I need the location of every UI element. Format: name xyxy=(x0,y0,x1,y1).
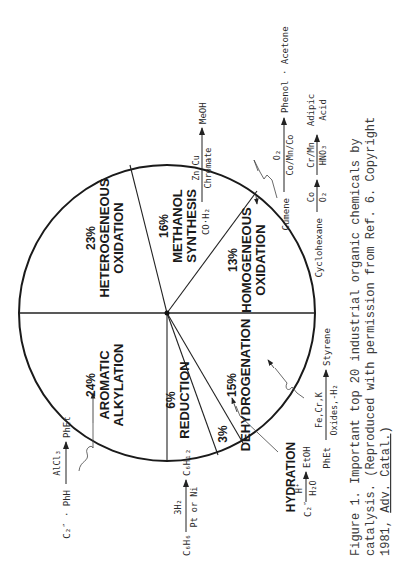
svg-text:MeOH: MeOH xyxy=(198,102,208,124)
svg-text:AlCl₃: AlCl₃ xyxy=(52,450,62,476)
figure-page: 24% AROMATIC ALKYLATION 23% HETEROGENEOU… xyxy=(0,0,417,580)
svg-text:H⁺: H⁺ xyxy=(294,483,304,493)
svg-text:H₂O: H₂O xyxy=(308,480,318,495)
svg-text:CO·H₂: CO·H₂ xyxy=(201,208,211,235)
svg-text:Adipic: Adipic xyxy=(306,94,316,127)
divider-heterogeneous-methanol xyxy=(130,165,167,313)
svg-text:PhEt: PhEt xyxy=(62,416,72,438)
svg-text:Pt or Ni: Pt or Ni xyxy=(189,487,199,528)
reaction-cyclohexane: Cyclohexane Co O₂ Cr/Mn HNO₃ Adipic Acid xyxy=(306,94,328,278)
svg-text:13%: 13% xyxy=(226,248,240,272)
svg-text:Zn-Cu: Zn-Cu xyxy=(191,155,201,181)
svg-text:METHANOL: METHANOL xyxy=(170,189,185,263)
svg-text:PhEt: PhEt xyxy=(322,447,332,469)
svg-text:Cumene: Cumene xyxy=(281,198,291,231)
svg-text:24%: 24% xyxy=(84,373,98,397)
svg-text:1981, Adv. Catal.): 1981, Adv. Catal.) xyxy=(379,426,393,556)
svg-text:OXIDATION: OXIDATION xyxy=(253,224,268,295)
svg-text:OXIDATION: OXIDATION xyxy=(111,202,126,273)
svg-text:C₂″: C₂″ xyxy=(303,501,313,517)
svg-text:AROMATIC: AROMATIC xyxy=(97,350,112,420)
reaction-reduction: C₆H₆ 3H₂ Pt or Ni C₆H₁₂ xyxy=(173,449,199,556)
svg-text:DEHYDROGENATION: DEHYDROGENATION xyxy=(238,319,253,452)
svg-text:Chromate: Chromate xyxy=(203,148,213,189)
svg-text:15%: 15% xyxy=(225,373,239,397)
svg-text:3H₂: 3H₂ xyxy=(173,499,183,514)
svg-text:Co/Mn/Co: Co/Mn/Co xyxy=(285,135,295,176)
svg-text:C₆H₆: C₆H₆ xyxy=(182,534,192,556)
svg-text:EtOH: EtOH xyxy=(302,446,312,468)
figure-caption: Figure 1. Important top 20 industrial or… xyxy=(349,117,393,556)
svg-text:Figure 1. Important top 20 ind: Figure 1. Important top 20 industrial or… xyxy=(349,138,363,556)
svg-text:HOMOGENEOUS: HOMOGENEOUS xyxy=(239,207,254,313)
svg-text:Oxides,-H₂: Oxides,-H₂ xyxy=(329,384,339,435)
svg-text:SYNTHESIS: SYNTHESIS xyxy=(184,189,199,263)
slice-label-heterogeneous: 23% HETEROGENEOUS OXIDATION xyxy=(84,178,126,298)
svg-text:catalysis. (Reproduced with pe: catalysis. (Reproduced with permission f… xyxy=(364,117,378,556)
svg-text:ALKYLATION: ALKYLATION xyxy=(111,344,126,427)
svg-text:23%: 23% xyxy=(84,226,98,250)
svg-text:6%: 6% xyxy=(164,391,178,409)
slice-label-hydration-pct: 3% xyxy=(216,425,230,443)
svg-text:HYDRATION: HYDRATION xyxy=(284,442,298,512)
svg-text:C₂″ · PhH: C₂″ · PhH xyxy=(62,490,72,539)
reaction-alkylation: C₂″ · PhH AlCl₃ PhEt xyxy=(52,393,93,539)
svg-text:Acid: Acid xyxy=(318,99,328,121)
svg-text:O₂: O₂ xyxy=(318,192,328,202)
svg-text:Cr/Mn: Cr/Mn xyxy=(306,142,316,168)
svg-text:C₆H₁₂: C₆H₁₂ xyxy=(182,449,192,476)
pie-chart-figure: 24% AROMATIC ALKYLATION 23% HETEROGENEOU… xyxy=(0,0,417,580)
divider-reduction-hydration xyxy=(167,313,218,455)
svg-text:Cyclohexane: Cyclohexane xyxy=(314,218,324,278)
reaction-cumene: Cumene O₂ Co/Mn/Co Phenol · Acetone xyxy=(254,26,295,230)
svg-text:Phenol · Acetone: Phenol · Acetone xyxy=(280,26,290,113)
pie-center xyxy=(165,311,170,316)
svg-text:O₂: O₂ xyxy=(272,150,282,160)
svg-text:Co: Co xyxy=(306,192,316,202)
svg-text:Styrene: Styrene xyxy=(322,328,332,366)
slice-label-methanol: 16% METHANOL SYNTHESIS xyxy=(157,189,199,263)
slice-label-homogeneous: 13% HOMOGENEOUS OXIDATION xyxy=(226,207,268,313)
svg-text:16%: 16% xyxy=(157,214,171,238)
slice-label-alkylation: 24% AROMATIC ALKYLATION xyxy=(84,344,126,427)
svg-text:Fe,Cr,K: Fe,Cr,K xyxy=(314,391,324,428)
svg-text:HETEROGENEOUS: HETEROGENEOUS xyxy=(97,178,112,298)
svg-text:REDUCTION: REDUCTION xyxy=(177,361,192,438)
slice-label-reduction: 6% REDUCTION xyxy=(164,361,192,438)
svg-text:HNO₃: HNO₃ xyxy=(318,145,328,165)
